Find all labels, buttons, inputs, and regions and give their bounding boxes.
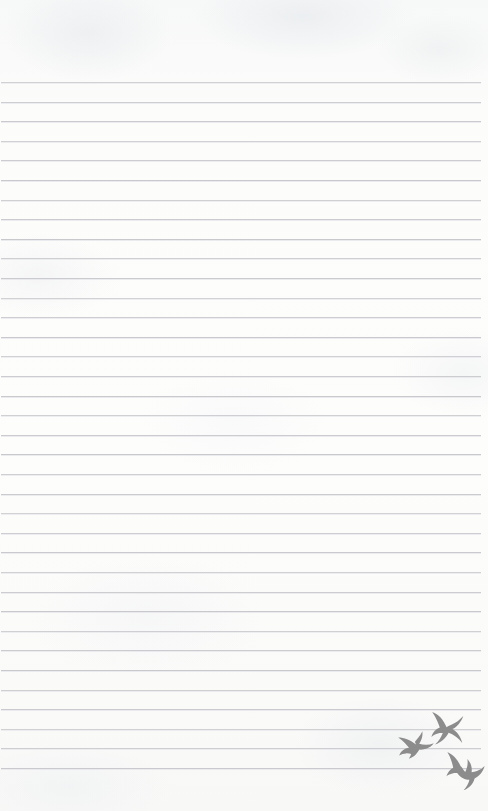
rule-line <box>1 160 481 161</box>
rule-line <box>1 474 481 475</box>
rule-line <box>1 82 481 83</box>
rule-line <box>1 494 481 495</box>
rule-line <box>1 690 481 691</box>
rule-line <box>1 298 481 299</box>
rule-line <box>1 533 481 534</box>
rule-line <box>1 592 481 593</box>
rule-line <box>1 317 481 318</box>
rule-line <box>1 650 481 651</box>
rule-line <box>1 572 481 573</box>
rule-line <box>1 219 481 220</box>
rule-line <box>1 454 481 455</box>
rule-line <box>1 396 481 397</box>
rule-line <box>1 258 481 259</box>
rule-line <box>1 631 481 632</box>
rule-line <box>1 337 481 338</box>
rule-line <box>1 239 481 240</box>
rule-line <box>1 513 481 514</box>
rule-line <box>1 611 481 612</box>
bird-perched-wings-up-icon <box>446 749 486 791</box>
rule-line <box>1 200 481 201</box>
rule-line <box>1 278 481 279</box>
rule-line <box>1 552 481 553</box>
notebook-page <box>0 0 488 811</box>
rule-line <box>1 121 481 122</box>
rule-line <box>1 415 481 416</box>
rule-line <box>1 102 481 103</box>
rule-line <box>1 180 481 181</box>
rule-line <box>1 376 481 377</box>
rule-line <box>1 356 481 357</box>
flying-birds-flock <box>388 703 488 795</box>
rule-line <box>1 141 481 142</box>
bird-flying-left-icon <box>398 730 435 761</box>
rule-line <box>1 435 481 436</box>
rule-line <box>1 670 481 671</box>
ruled-lines-layer <box>0 0 488 811</box>
